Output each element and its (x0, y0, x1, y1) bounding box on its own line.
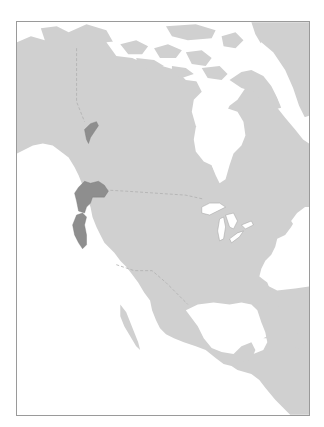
north-america-map (17, 22, 309, 415)
map-frame: Species range map — North America (16, 21, 310, 416)
